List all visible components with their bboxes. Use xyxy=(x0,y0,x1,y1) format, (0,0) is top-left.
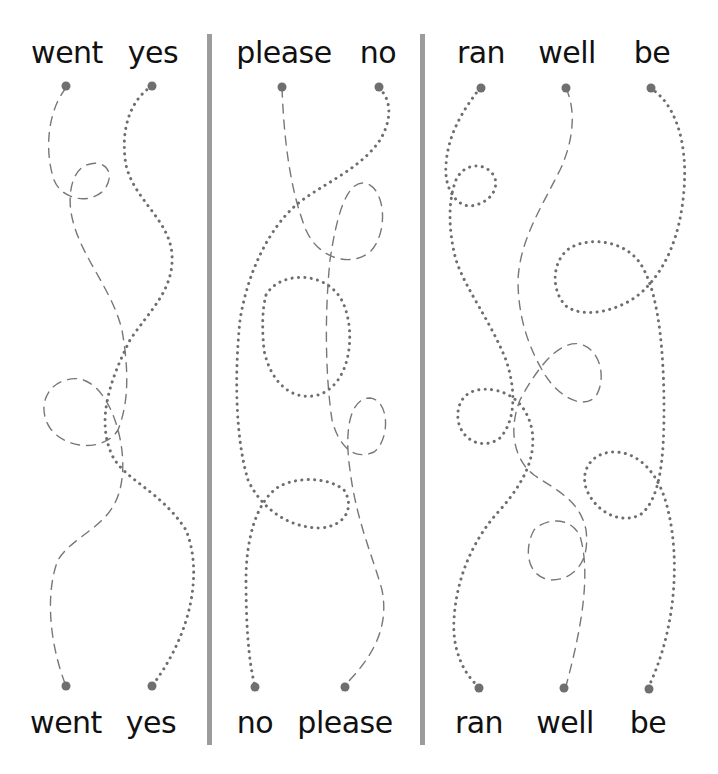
end-dot-well[interactable] xyxy=(560,684,569,693)
start-dot-no[interactable] xyxy=(375,83,384,92)
end-dot-no[interactable] xyxy=(251,683,260,692)
trace-path-well[interactable] xyxy=(514,88,601,686)
end-dot-yes[interactable] xyxy=(148,682,157,691)
trace-path-ran[interactable] xyxy=(446,88,533,686)
end-dot-please[interactable] xyxy=(341,683,350,692)
start-dot-yes[interactable] xyxy=(148,82,157,91)
trace-path-went[interactable] xyxy=(44,88,127,686)
trace-paths xyxy=(0,0,718,774)
start-dot-please[interactable] xyxy=(278,83,287,92)
start-dot-went[interactable] xyxy=(62,82,71,91)
start-dot-well[interactable] xyxy=(562,84,571,93)
trace-path-please[interactable] xyxy=(282,88,386,686)
start-dot-be[interactable] xyxy=(647,84,656,93)
end-dot-ran[interactable] xyxy=(475,684,484,693)
trace-path-be[interactable] xyxy=(555,88,685,688)
end-dot-be[interactable] xyxy=(645,685,654,694)
trace-loop xyxy=(263,277,350,396)
start-dot-ran[interactable] xyxy=(477,84,486,93)
trace-path-no[interactable] xyxy=(237,88,389,686)
end-dot-went[interactable] xyxy=(62,682,71,691)
trace-path-yes[interactable] xyxy=(105,86,194,686)
